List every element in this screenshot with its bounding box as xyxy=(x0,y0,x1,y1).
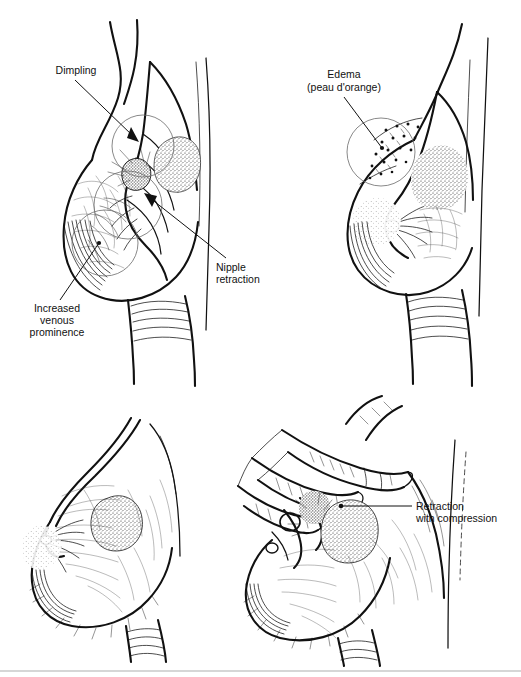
label-edema-line2: (peau d'orange) xyxy=(307,81,381,93)
label-retraction-line1: Retraction xyxy=(416,500,464,512)
label-retraction-line2: with compression xyxy=(415,512,497,524)
tumor-mass xyxy=(154,137,201,192)
retracted-nipple-core xyxy=(122,158,151,190)
nipple-br xyxy=(266,543,278,553)
figure-canvas: Dimpling Nipple retraction Increased ven… xyxy=(0,0,521,677)
label-venous-line2: venous xyxy=(40,314,74,326)
label-venous-line1: Increased xyxy=(34,302,80,314)
label-venous-line3: prominence xyxy=(30,326,85,338)
label-dimpling: Dimpling xyxy=(56,64,97,76)
medical-illustration-svg: Dimpling Nipple retraction Increased ven… xyxy=(0,0,521,677)
label-nipple-retraction-line2: retraction xyxy=(216,273,260,285)
tumor-mass-br xyxy=(321,500,378,563)
label-nipple-retraction-line1: Nipple xyxy=(216,261,246,273)
label-edema-line1: Edema xyxy=(327,68,360,80)
